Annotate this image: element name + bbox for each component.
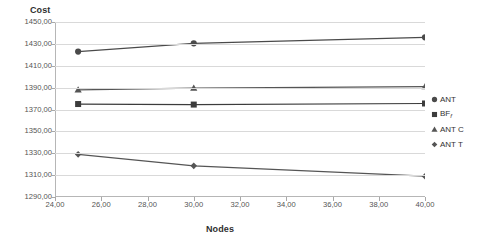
legend-marker-icon	[430, 110, 439, 119]
y-axis-tick-mark	[51, 44, 55, 45]
legend-item-label: ANT	[440, 96, 456, 104]
gridline	[55, 175, 425, 176]
y-axis-tick-label: 1430,00	[8, 39, 52, 48]
legend-marker-icon	[430, 125, 439, 134]
y-axis-tick-mark	[51, 22, 55, 23]
x-axis-tick-mark	[55, 197, 56, 201]
legend: ANTBFfANT CANT T	[430, 92, 480, 152]
y-axis-tick-mark	[51, 175, 55, 176]
x-axis-tick-label: 28,00	[128, 200, 168, 209]
gridline	[55, 44, 425, 45]
y-axis-tick-label: 1370,00	[8, 105, 52, 114]
gridline	[55, 153, 425, 154]
x-axis-tick-mark	[148, 197, 149, 201]
gridline	[55, 88, 425, 89]
y-axis-tick-label: 1350,00	[8, 126, 52, 135]
y-axis-tick-label: 1410,00	[8, 61, 52, 70]
x-axis-tick-mark	[101, 197, 102, 201]
x-axis-tick-label: 32,00	[220, 200, 260, 209]
x-axis-tick-mark	[425, 197, 426, 201]
x-axis-tick-label: 26,00	[81, 200, 121, 209]
x-axis-tick-label: 34,00	[266, 200, 306, 209]
x-axis-title: Nodes	[0, 224, 440, 234]
legend-item-ant-t[interactable]: ANT T	[430, 137, 480, 152]
gridline	[55, 66, 425, 67]
legend-item-label: ANT T	[440, 141, 463, 149]
y-axis-tick-mark	[51, 88, 55, 89]
x-axis-tick-mark	[286, 197, 287, 201]
legend-item-label: ANT C	[440, 126, 464, 134]
x-axis-tick-mark	[333, 197, 334, 201]
x-axis-tick-label: 38,00	[359, 200, 399, 209]
legend-item-ant-c[interactable]: ANT C	[430, 122, 480, 137]
y-axis-tick-mark	[51, 131, 55, 132]
y-axis-tick-label: 1310,00	[8, 170, 52, 179]
legend-item-bf[interactable]: BFf	[430, 107, 480, 122]
legend-item-label: BFf	[440, 110, 452, 119]
x-axis-tick-label: 40,00	[405, 200, 445, 209]
x-axis-tick-label: 30,00	[174, 200, 214, 209]
x-axis-tick-label: 36,00	[313, 200, 353, 209]
y-axis-tick-label: 1390,00	[8, 83, 52, 92]
legend-marker-icon	[430, 140, 439, 149]
y-axis-tick-mark	[51, 153, 55, 154]
y-axis-tick-label: 1330,00	[8, 148, 52, 157]
y-axis-title: Cost	[30, 5, 50, 15]
y-axis-tick-mark	[51, 110, 55, 111]
legend-item-ant[interactable]: ANT	[430, 92, 480, 107]
plot-area	[55, 22, 425, 197]
y-axis-tick-label: 1450,00	[8, 17, 52, 26]
gridline	[55, 22, 425, 23]
line-chart: Cost 1290,001310,001330,001350,001370,00…	[0, 0, 480, 249]
y-axis-tick-mark	[51, 66, 55, 67]
x-axis-tick-mark	[194, 197, 195, 201]
gridline	[55, 110, 425, 111]
x-axis-tick-mark	[240, 197, 241, 201]
legend-marker-icon	[430, 95, 439, 104]
x-axis-tick-label: 24,00	[35, 200, 75, 209]
x-axis-tick-mark	[379, 197, 380, 201]
gridline	[55, 131, 425, 132]
legend-item-subscript: f	[450, 113, 452, 119]
